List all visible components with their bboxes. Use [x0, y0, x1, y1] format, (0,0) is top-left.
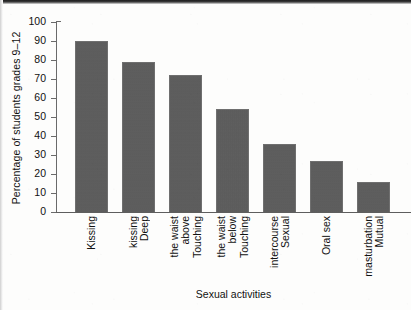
bar [310, 161, 343, 212]
y-axis-tick-label: 50 [6, 111, 46, 121]
y-axis-tick-label: 30 [6, 149, 46, 159]
x-axis-category-label-line: Deep [139, 216, 151, 241]
plot-area [56, 22, 408, 212]
y-axis-tick-label: 60 [6, 92, 46, 102]
x-axis-category-label-line: Touching [191, 216, 203, 258]
bar [357, 182, 390, 212]
bar [122, 62, 155, 212]
x-axis-category-label-line: the waist [168, 216, 180, 257]
x-axis-title: Sexual activities [56, 288, 411, 300]
bar [216, 109, 249, 212]
x-axis-category-label-line: intercourse [268, 216, 280, 268]
y-axis-tick-label: 100 [6, 16, 46, 26]
x-axis-category-labels: KissingDeepkissingTouchingabovethe waist… [56, 214, 411, 286]
x-axis-category-label-line: Mutual [374, 216, 386, 248]
x-axis-category-label: Touchingabovethe waist [169, 216, 202, 286]
y-axis-tick-label: 40 [6, 130, 46, 140]
y-axis-tick-label: 0 [6, 206, 46, 216]
x-axis-category-label-line: Sexual [280, 216, 292, 248]
x-axis-category-label-line: Touching [238, 216, 250, 258]
scan-edge-left [0, 0, 3, 310]
x-axis-category-label: Mutualmasturbation [357, 216, 390, 286]
bar [169, 75, 202, 212]
bar-chart-figure: Percentage of students grades 9–12 01020… [0, 0, 411, 310]
x-axis-category-label-line: kissing [127, 216, 139, 248]
x-axis-category-label-line: masturbation [362, 216, 374, 277]
scan-edge-top [0, 0, 411, 4]
x-axis-category-label: Sexualintercourse [263, 216, 296, 286]
y-axis-tick-label: 90 [6, 35, 46, 45]
bar [75, 41, 108, 212]
x-axis-category-label: Touchingbelowthe waist [216, 216, 249, 286]
bar [263, 144, 296, 212]
x-axis-category-label-line: below [227, 216, 239, 243]
x-axis-category-label: Deepkissing [122, 216, 155, 286]
y-axis-tick [51, 212, 56, 213]
y-axis-tick-label: 10 [6, 187, 46, 197]
y-axis-tick-label: 70 [6, 73, 46, 83]
x-axis-category-label-line: the waist [215, 216, 227, 257]
x-axis-category-label-line: Oral sex [321, 216, 333, 255]
x-axis-category-label: Oral sex [310, 216, 343, 286]
x-axis-category-label: Kissing [75, 216, 108, 286]
x-axis-category-label-line: Kissing [86, 216, 98, 250]
y-axis-tick-label: 80 [6, 54, 46, 64]
x-axis-line [56, 212, 411, 213]
x-axis-category-label-line: above [180, 216, 192, 245]
y-axis-tick-label: 20 [6, 168, 46, 178]
